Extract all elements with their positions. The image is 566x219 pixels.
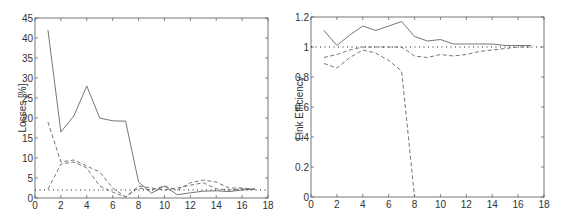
x-tick-label: 10 (159, 200, 171, 211)
x-tick-label: 14 (211, 200, 223, 211)
x-tick-label: 4 (84, 200, 90, 211)
plot-frame (311, 17, 544, 197)
y-tick-label: 35 (22, 53, 34, 64)
x-tick-label: 2 (334, 199, 340, 210)
y-tick-label: 40 (22, 33, 34, 44)
x-tick-label: 8 (136, 200, 142, 211)
series-line-solid (324, 22, 531, 46)
series-line-dashed-a (48, 122, 255, 197)
series-line-dashed-a (324, 47, 531, 58)
losses-y-axis-label: Losses [%] (17, 83, 28, 132)
x-tick-label: 12 (461, 199, 473, 210)
x-tick-label: 14 (487, 199, 499, 210)
x-tick-label: 18 (538, 199, 550, 210)
y-tick-label: 5 (27, 173, 33, 184)
x-tick-label: 12 (185, 200, 197, 211)
y-tick-label: 30 (22, 73, 34, 84)
link-efficiency-chart: 02468101214161800.20.40.60.811.2 Link Ef… (283, 0, 566, 219)
link-efficiency-y-axis-label: Link Efficiency (294, 76, 305, 140)
y-tick-label: 0 (303, 192, 309, 203)
x-tick-label: 16 (513, 199, 525, 210)
x-tick-label: 8 (412, 199, 418, 210)
x-tick-label: 6 (386, 199, 392, 210)
plot-frame (35, 18, 268, 198)
y-tick-label: 1.2 (295, 12, 309, 23)
y-tick-label: 1 (303, 42, 309, 53)
series-line-dashed-b (324, 50, 415, 197)
x-tick-label: 0 (308, 199, 314, 210)
series-line-dashed-b (48, 162, 255, 197)
x-tick-label: 16 (237, 200, 249, 211)
x-tick-label: 2 (58, 200, 64, 211)
y-tick-label: 0 (27, 193, 33, 204)
x-tick-label: 6 (110, 200, 116, 211)
y-tick-label: 10 (22, 153, 34, 164)
x-tick-label: 4 (360, 199, 366, 210)
series-line-solid (48, 30, 255, 195)
x-tick-label: 18 (262, 200, 274, 211)
losses-chart: 024681012141618051015202530354045 Losses… (0, 0, 283, 219)
x-tick-label: 10 (435, 199, 447, 210)
y-tick-label: 45 (22, 13, 34, 24)
y-tick-label: 0.2 (295, 162, 309, 173)
y-tick-label: 15 (22, 133, 34, 144)
x-tick-label: 0 (32, 200, 38, 211)
